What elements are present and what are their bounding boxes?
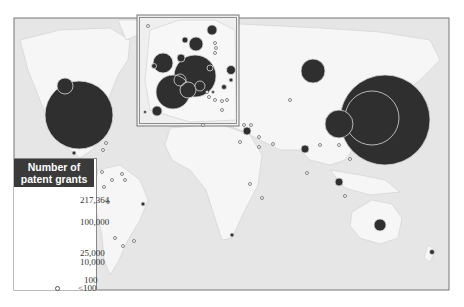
circle-mexico xyxy=(72,151,76,155)
circle-brazil xyxy=(141,202,145,206)
marker xyxy=(349,158,352,161)
marker xyxy=(214,42,217,45)
ring-netherlands xyxy=(177,54,185,62)
marker xyxy=(272,143,275,146)
circle-usa xyxy=(45,81,113,149)
marker xyxy=(261,197,264,200)
marker xyxy=(239,141,242,144)
marker xyxy=(214,99,217,102)
circle-austria xyxy=(195,81,205,91)
marker xyxy=(289,99,292,102)
marker xyxy=(105,142,108,145)
marker xyxy=(114,237,117,240)
marker xyxy=(103,186,106,189)
marker xyxy=(121,173,124,176)
circle-ussr xyxy=(301,59,325,83)
circle-poland xyxy=(227,66,236,75)
marker xyxy=(250,124,253,127)
circle-italy xyxy=(180,82,196,98)
marker xyxy=(101,171,104,174)
marker xyxy=(102,149,105,152)
marker xyxy=(258,136,261,139)
legend-hollow-marker-icon xyxy=(55,286,60,291)
marker xyxy=(215,47,218,50)
marker xyxy=(338,144,341,147)
circle-australia xyxy=(374,219,386,231)
circle-czech xyxy=(207,65,213,71)
circle-korea xyxy=(325,110,353,138)
circle-romania xyxy=(229,78,233,82)
circle-yugoslavia xyxy=(212,91,215,94)
marker xyxy=(221,100,224,103)
circle-singapore xyxy=(335,178,343,186)
legend-label-10000: 10,000 xyxy=(80,257,105,267)
marker xyxy=(122,245,125,248)
legend-title-line1: Number of xyxy=(14,161,94,173)
circle-norway xyxy=(182,37,188,43)
marker xyxy=(221,109,224,112)
circle-hungary xyxy=(222,85,227,90)
marker-iceland xyxy=(147,25,150,28)
circle-portugal xyxy=(144,111,147,114)
circle-india xyxy=(301,145,309,153)
legend-label-217364: 217,364 xyxy=(80,195,109,205)
marker xyxy=(319,144,322,147)
circle-japan xyxy=(340,75,430,165)
marker xyxy=(111,179,114,182)
marker xyxy=(249,183,252,186)
circle-nz xyxy=(430,250,435,255)
legend-title-line2: patent grants xyxy=(14,173,94,185)
marker xyxy=(124,179,127,182)
marker xyxy=(206,91,209,94)
circle-canada xyxy=(57,78,73,94)
marker xyxy=(226,99,229,102)
circle-spain xyxy=(152,106,162,116)
marker xyxy=(243,124,246,127)
circle-ireland xyxy=(152,64,157,69)
marker xyxy=(202,124,205,127)
circle-sweden xyxy=(189,37,203,51)
marker xyxy=(133,240,136,243)
marker xyxy=(214,52,217,55)
marker xyxy=(258,146,261,149)
circle-uk xyxy=(153,53,173,73)
marker xyxy=(208,96,211,99)
legend-label-100000: 100,000 xyxy=(80,217,109,227)
legend-label-lt100: <100 xyxy=(78,283,97,293)
marker xyxy=(344,195,347,198)
circle-finland xyxy=(207,25,217,35)
marker xyxy=(306,172,309,175)
circle-israel xyxy=(243,127,251,135)
legend-title: Number of patent grants xyxy=(14,159,94,187)
circle-south-africa xyxy=(230,233,234,237)
